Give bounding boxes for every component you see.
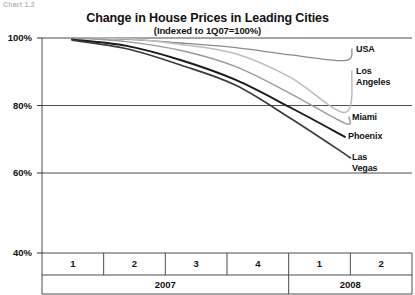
series-label-miami: Miami [352,112,377,123]
x-tick-label-5: 2 [350,258,412,269]
series-label-usa: USA [356,44,375,55]
series-line-phoenix [72,39,345,136]
x-tick-label-4: 1 [289,258,351,269]
x-tick-label-2: 3 [165,258,227,269]
x-group-label-2007: 2007 [42,279,289,290]
series-line-miami [72,38,350,124]
chart-plot-area [0,0,415,295]
chart-container: Chart 1.2 Change in House Prices in Lead… [0,0,415,295]
x-tick-label-0: 1 [42,258,104,269]
series-label-los-angeles: Los Angeles [356,66,390,87]
x-group-label-2008: 2008 [289,279,412,290]
series-label-las-vegas: Las Vegas [352,152,378,173]
x-tick-label-1: 2 [104,258,166,269]
x-tick-label-3: 4 [227,258,289,269]
series-label-phoenix: Phoenix [348,131,382,142]
